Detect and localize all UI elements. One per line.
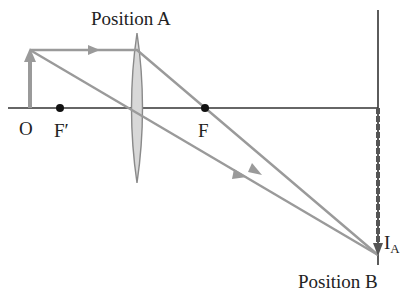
ray-central: [30, 50, 378, 255]
image-label-sub: A: [390, 241, 399, 256]
position-a-label: Position A: [91, 9, 171, 28]
ray-arrow-icon: [248, 163, 262, 175]
ray-arrow-icon: [88, 45, 100, 55]
front-focal-label: F′: [54, 121, 69, 140]
converging-lens: [132, 33, 143, 183]
back-focal-point: [201, 104, 209, 112]
object-label: O: [19, 119, 33, 138]
position-b-label: Position B: [298, 272, 378, 291]
image-label: IA: [384, 233, 400, 255]
back-focal-label: F: [198, 121, 209, 140]
front-focal-point: [56, 104, 64, 112]
